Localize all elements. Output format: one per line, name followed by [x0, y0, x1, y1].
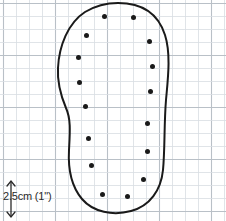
foot-measurement-figure: 2.5cm (1") [0, 0, 226, 221]
scale-indicator-layer [0, 0, 226, 221]
scale-label: 2.5cm (1") [3, 190, 51, 203]
